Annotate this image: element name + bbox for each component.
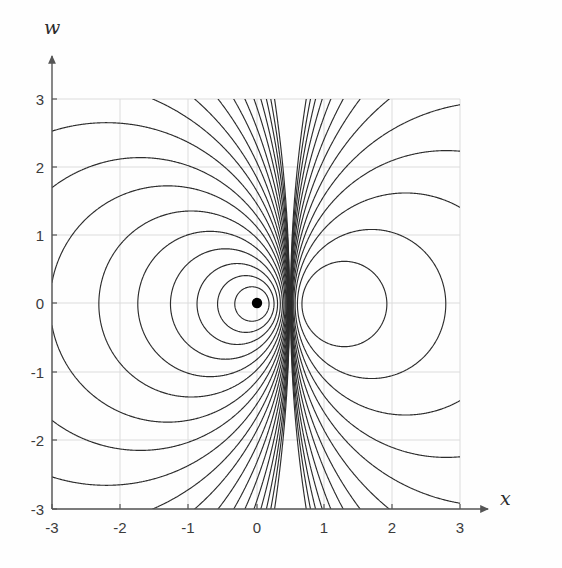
axis-label-w: w bbox=[44, 16, 60, 38]
x-tick-label--1: -1 bbox=[181, 519, 194, 536]
plot-canvas bbox=[0, 0, 562, 568]
w-tick-label-3: 3 bbox=[36, 91, 44, 108]
x-tick-label--2: -2 bbox=[113, 519, 126, 536]
contour-line bbox=[295, 193, 460, 415]
w-tick-label--1: -1 bbox=[31, 364, 44, 381]
x-tick-label-0: 0 bbox=[253, 519, 261, 536]
x-tick-label-1: 1 bbox=[320, 519, 328, 536]
contour-line bbox=[297, 229, 445, 378]
contour-plot-figure: w x -3 -2 -1 0 1 2 3 3 2 1 0 -1 -2 -3 bbox=[0, 0, 562, 568]
contour-line bbox=[218, 276, 274, 333]
contour-line bbox=[292, 99, 389, 509]
w-tick-label--3: -3 bbox=[31, 501, 44, 518]
x-tick-label--3: -3 bbox=[45, 519, 58, 536]
x-tick-label-3: 3 bbox=[456, 519, 464, 536]
contour-line bbox=[52, 186, 285, 422]
contour-line bbox=[302, 261, 387, 346]
contour-line bbox=[293, 105, 460, 503]
center-point-marker bbox=[252, 298, 262, 308]
contour-line bbox=[52, 158, 286, 451]
contour-line bbox=[52, 123, 287, 486]
w-tick-label-0: 0 bbox=[36, 295, 44, 312]
w-tick-label-1: 1 bbox=[36, 227, 44, 244]
contour-line bbox=[291, 99, 322, 509]
contour-line bbox=[197, 264, 278, 345]
w-tick-label--2: -2 bbox=[31, 432, 44, 449]
contour-line bbox=[153, 99, 288, 509]
w-tick-label-2: 2 bbox=[36, 159, 44, 176]
x-tick-label-2: 2 bbox=[388, 519, 396, 536]
axis-label-x: x bbox=[500, 487, 511, 509]
contour-line bbox=[291, 99, 316, 509]
contour-line bbox=[291, 99, 343, 509]
